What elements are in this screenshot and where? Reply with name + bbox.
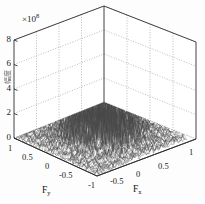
z-tick-label-2: 2: [0, 107, 11, 117]
x-tick-label-0: 0: [136, 169, 140, 179]
z-axis-exponent: ×108: [22, 12, 39, 24]
plot-svg: [0, 0, 205, 204]
exponent-prefix: ×10: [22, 14, 36, 24]
y-axis-label-sub: y: [47, 189, 50, 196]
x-tick-label-1: 1: [189, 147, 193, 157]
x-axis-label-sub: x: [138, 188, 141, 195]
y-tick-label-neg0p5: -0.5: [59, 170, 72, 180]
y-tick-label-0: 0: [45, 161, 49, 171]
z-tick-label-6: 6: [0, 58, 11, 68]
z-tick-label-4: 4: [0, 83, 11, 93]
exponent-power: 8: [36, 12, 39, 19]
y-tick-label-1: 1: [8, 143, 12, 153]
z-tick-label-0: 0: [0, 132, 11, 142]
x-tick-label-neg0p5: -0.5: [110, 176, 123, 186]
z-tick-label-8: 8: [0, 34, 11, 44]
y-axis-label: Fy: [42, 185, 51, 195]
x-tick-label-0p5: 0.5: [158, 161, 169, 171]
y-tick-label-0p5: 0.5: [22, 152, 33, 162]
y-tick-label-neg1: -1: [88, 180, 95, 190]
figure-canvas: ×108 幅度 8 6 4 2 0 1 0.5 0 -0.5 -1 -0.5 0…: [0, 0, 205, 204]
x-axis-label: Fx: [133, 184, 142, 194]
